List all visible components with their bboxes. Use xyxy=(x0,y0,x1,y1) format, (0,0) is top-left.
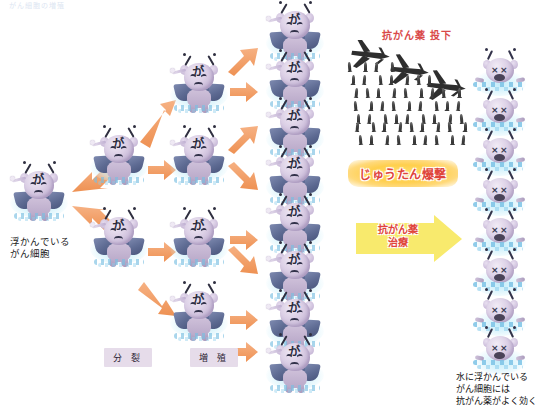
cell-antenna-tip-left xyxy=(103,125,106,128)
cell-antenna-tip-right xyxy=(213,125,216,128)
cell-antenna-tip-right xyxy=(309,241,312,244)
label-treatment-line2: 治療 xyxy=(368,237,428,249)
cell-antenna-tip-left xyxy=(183,281,186,284)
bomb-icon xyxy=(442,88,446,97)
cancer-cell-alive: が xyxy=(168,210,230,268)
falling-bombs-layer xyxy=(348,60,478,152)
bomb-icon xyxy=(395,114,398,123)
dead-cell-mouth xyxy=(494,274,505,281)
bomb-icon xyxy=(397,135,401,144)
bomb-icon xyxy=(370,135,373,144)
bomb-icon xyxy=(446,101,449,110)
dead-cell-antenna-left xyxy=(487,170,493,180)
dead-cell-antenna-right xyxy=(508,90,514,100)
cell-arm-spike-tip xyxy=(266,208,271,213)
water-ripple-2 xyxy=(477,167,523,171)
bomb-icon xyxy=(348,62,352,71)
cell-antenna-tip-right xyxy=(53,161,56,164)
dead-cell-antenna-tip-left xyxy=(485,248,488,251)
cell-mouth xyxy=(290,222,299,229)
dead-cell-antenna-tip-right xyxy=(513,128,516,131)
dead-cell-x-eye-right: × xyxy=(500,107,507,114)
dead-cell-mouth xyxy=(494,194,505,201)
cell-mouth xyxy=(290,318,299,325)
water-ripple-2 xyxy=(477,207,523,211)
bomb-icon xyxy=(364,62,367,71)
dead-cell-antenna-tip-right xyxy=(513,288,516,291)
bomb-icon xyxy=(386,135,390,144)
cell-antenna-tip-left xyxy=(183,53,186,56)
dead-cell-x-eye-right: × xyxy=(500,67,507,74)
dead-cell-antenna-right xyxy=(508,130,514,140)
water-ripple-2 xyxy=(178,337,218,341)
cell-arm-spike-tip xyxy=(266,112,271,117)
dead-cell-mouth xyxy=(494,74,505,81)
bomb-icon xyxy=(421,122,424,131)
cell-antenna-tip-right xyxy=(309,1,312,4)
cell-arm-spike-tip xyxy=(10,176,15,181)
bomb-icon xyxy=(393,88,397,97)
bomb-icon xyxy=(406,114,410,123)
bomb-icon xyxy=(451,135,454,144)
dead-cell-x-eye-left: × xyxy=(491,147,498,154)
cancer-cell-alive: が xyxy=(264,336,326,394)
bomb-icon xyxy=(362,75,366,84)
dead-cell-antenna-left xyxy=(487,328,493,338)
bomb-icon xyxy=(433,114,436,123)
bomb-icon xyxy=(436,122,440,131)
dead-cell-x-eye-right: × xyxy=(500,307,507,314)
dead-cell-x-eye-left: × xyxy=(491,307,498,314)
arrow-gen3d-to-gen4g xyxy=(230,310,258,330)
cell-arm-spike-tip xyxy=(90,140,95,145)
cell-antenna-tip-right xyxy=(309,145,312,148)
cell-antenna-tip-left xyxy=(103,207,106,210)
bomb-icon xyxy=(416,75,420,84)
bomb-icon xyxy=(391,62,395,71)
dead-cell-antenna-right xyxy=(508,328,514,338)
dead-cell-antenna-left xyxy=(487,210,493,220)
bomb-icon xyxy=(377,88,380,97)
water-ripple-2 xyxy=(477,365,523,369)
bomb-icon xyxy=(460,114,464,123)
bomb-icon xyxy=(428,75,431,84)
dead-cell-antenna-tip-left xyxy=(485,88,488,91)
label-proliferation: 増 殖 xyxy=(190,348,238,367)
cancer-cell-alive: が xyxy=(168,128,230,186)
dead-cell-x-eye-left: × xyxy=(491,345,498,352)
cell-arm-spike-tip xyxy=(266,348,271,353)
water-ripple-2 xyxy=(274,389,314,393)
bomb-icon xyxy=(390,75,393,84)
dead-cell-x-eye-left: × xyxy=(491,107,498,114)
bomb-icon xyxy=(366,88,370,97)
bomb-icon xyxy=(405,75,409,84)
dead-cell-mouth xyxy=(494,234,505,241)
diagram-canvas: がん細胞の増殖 xyxy=(0,0,537,411)
bomb-icon xyxy=(420,88,423,97)
cell-arm-spike-tip xyxy=(266,16,271,21)
dead-cell-mouth xyxy=(494,314,505,321)
bomb-icon xyxy=(383,122,386,131)
cell-antenna-tip-right xyxy=(213,207,216,210)
cell-antenna-tip-right xyxy=(133,125,136,128)
cell-mouth xyxy=(290,30,299,37)
dead-cell-x-eye-right: × xyxy=(500,345,507,352)
dead-cell-x-eye-right: × xyxy=(500,227,507,234)
dead-cell-antenna-right xyxy=(508,50,514,60)
bomb-icon xyxy=(404,88,408,97)
cell-arm-spike-tip xyxy=(170,140,175,145)
cell-arm-spike-tip xyxy=(90,222,95,227)
dead-cell-antenna-tip-right xyxy=(513,88,516,91)
cell-antenna-tip-left xyxy=(279,145,282,148)
cell-antenna-tip-left xyxy=(279,193,282,196)
bomb-icon xyxy=(355,122,359,131)
bomb-icon xyxy=(458,88,461,97)
dead-cell-antenna-tip-left xyxy=(485,168,488,171)
cell-antenna-tip-left xyxy=(279,97,282,100)
label-division: 分 裂 xyxy=(104,348,152,367)
arrow-gen3c-to-gen4a xyxy=(228,48,258,76)
cell-mouth xyxy=(290,174,299,181)
cell-arm-spike-tip xyxy=(266,256,271,261)
dead-cell-antenna-tip-right xyxy=(513,168,516,171)
cell-antenna-tip-right xyxy=(309,333,312,336)
bomb-icon xyxy=(424,135,428,144)
